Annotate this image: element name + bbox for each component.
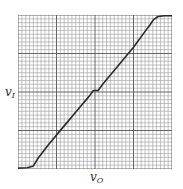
y-axis-label-main: v — [5, 85, 12, 99]
x-axis-label-sub: O — [97, 176, 104, 185]
y-axis-label: vI — [5, 86, 15, 100]
x-axis-label: vO — [90, 171, 103, 185]
chart-canvas — [18, 15, 172, 169]
x-axis-label-main: v — [90, 170, 97, 184]
y-axis-label-sub: I — [12, 91, 15, 100]
plot-area — [18, 15, 172, 169]
